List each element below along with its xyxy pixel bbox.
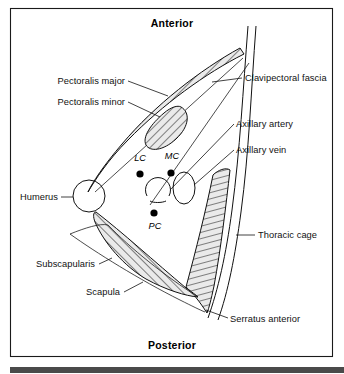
axilla-cross-section-figure: LC MC PC Anterior Posterior Pectoralis m… (0, 0, 344, 374)
label-scapula: Scapula (86, 287, 121, 297)
label-pectoralis-minor: Pectoralis minor (58, 97, 125, 107)
figure-border (11, 9, 333, 357)
label-axillary-artery: Axillary artery (236, 119, 293, 129)
label-pectoralis-major: Pectoralis major (58, 76, 125, 86)
label-axillary-vein: Axillary vein (236, 145, 286, 155)
lateral-cord-marker (136, 170, 143, 177)
label-clavipectoral-fascia: Clavipectoral fascia (245, 73, 327, 83)
bottom-rule-bar (10, 367, 344, 373)
label-subscapularis: Subscapularis (36, 259, 95, 269)
posterior-cord-label: PC (149, 221, 162, 231)
label-serratus-anterior: Serratus anterior (230, 314, 300, 324)
label-humerus: Humerus (20, 192, 58, 202)
medial-cord-label: MC (165, 151, 180, 161)
label-thoracic-cage: Thoracic cage (258, 230, 317, 240)
lateral-cord-label: LC (134, 153, 146, 163)
medial-cord-marker (167, 169, 174, 176)
posterior-cord-marker (150, 209, 157, 216)
orientation-label-posterior: Posterior (148, 339, 196, 351)
orientation-label-anterior: Anterior (151, 17, 193, 29)
